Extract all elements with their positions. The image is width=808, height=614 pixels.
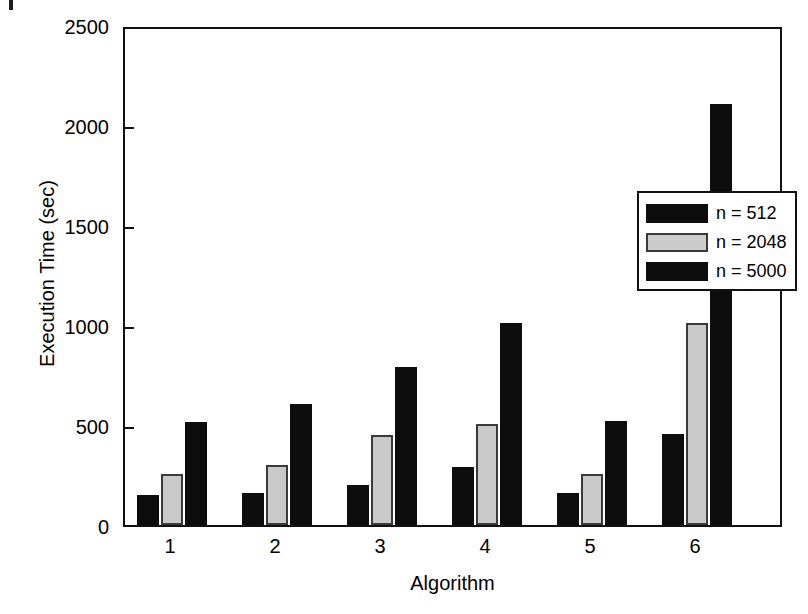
bar-group-5-series-3 (605, 421, 627, 525)
x-tick-label-1: 1 (164, 534, 175, 558)
y-tick-label-1500: 1500 (65, 217, 110, 237)
bar-group-4-series-3 (500, 323, 522, 525)
bar-group-3-series-2 (371, 435, 393, 525)
bar-group-2-series-3 (290, 404, 312, 525)
x-tick-label-4: 4 (479, 534, 490, 558)
legend-item-n-2048: n = 2048 (646, 228, 788, 256)
bar-group-6-series-2 (686, 323, 708, 525)
bar-group-3-series-1 (347, 485, 369, 525)
x-axis-title: Algorithm (123, 572, 782, 595)
x-axis-tick-labels: 1 2 3 4 5 6 (123, 534, 782, 564)
y-tick-mark-1500 (125, 227, 134, 229)
bar-group-1-series-2 (161, 474, 183, 525)
legend: n = 512 n = 2048 n = 5000 (637, 191, 797, 291)
y-tick-mark-2000 (125, 127, 134, 129)
bar-group-3-series-3 (395, 367, 417, 525)
legend-label-n-2048: n = 2048 (716, 233, 787, 251)
legend-label-n-512: n = 512 (716, 204, 777, 222)
y-tick-label-1000: 1000 (65, 317, 110, 337)
bar-group-4-series-2 (476, 424, 498, 525)
bar-group-5-series-2 (581, 474, 603, 525)
bar-group-6-series-1 (662, 434, 684, 525)
x-tick-label-6: 6 (689, 534, 700, 558)
y-tick-label-500: 500 (76, 417, 109, 437)
legend-swatch-n-2048 (646, 233, 708, 252)
bar-group-2-series-2 (266, 465, 288, 525)
legend-swatch-n-5000 (646, 262, 708, 281)
bar-group-1-series-3 (185, 422, 207, 525)
bar-group-4-series-1 (452, 467, 474, 525)
bar-group-1-series-1 (137, 495, 159, 525)
legend-item-n-5000: n = 5000 (646, 257, 788, 285)
bar-group-2-series-1 (242, 493, 264, 525)
legend-label-n-5000: n = 5000 (716, 262, 787, 280)
y-axis-tick-labels: 2500 2000 1500 1000 500 0 (0, 0, 123, 614)
y-tick-label-2500: 2500 (65, 17, 110, 37)
y-tick-mark-500 (125, 427, 134, 429)
x-tick-label-3: 3 (374, 534, 385, 558)
y-tick-label-2000: 2000 (65, 117, 110, 137)
bar-group-6-series-3 (710, 104, 732, 525)
x-tick-label-5: 5 (584, 534, 595, 558)
legend-swatch-n-512 (646, 204, 708, 223)
bar-group-5-series-1 (557, 493, 579, 525)
plot-inner: n = 512 n = 2048 n = 5000 (125, 29, 780, 525)
legend-item-n-512: n = 512 (646, 199, 788, 227)
y-tick-label-0: 0 (98, 517, 109, 537)
plot-area: n = 512 n = 2048 n = 5000 (123, 27, 782, 527)
y-tick-mark-1000 (125, 327, 134, 329)
y-axis-title: Execution Time (sec) (36, 124, 59, 424)
x-tick-label-2: 2 (269, 534, 280, 558)
bar-chart-figure: 2500 2000 1500 1000 500 0 Execution Time… (0, 0, 808, 614)
